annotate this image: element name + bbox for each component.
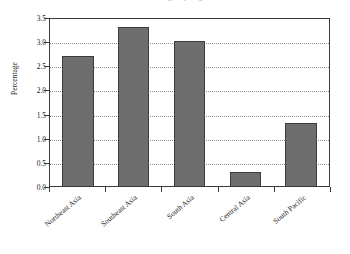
y-tick-mark (44, 66, 49, 67)
y-tick-label: 2.0 (20, 86, 46, 95)
x-tick-label: South Pacific (253, 193, 308, 241)
y-tick-label: 0.0 (20, 183, 46, 192)
x-tick-label: Northeast Asia (28, 193, 83, 241)
y-tick-mark (44, 90, 49, 91)
bar-slot (106, 19, 162, 186)
bar[interactable] (62, 56, 93, 186)
x-tick-label: Central Asia (197, 193, 252, 241)
y-tick-mark (44, 139, 49, 140)
bar-slot (217, 19, 273, 186)
y-tick-label: 3.0 (20, 38, 46, 47)
chart-title: Percentage by region (0, 0, 350, 1)
bar-slot (50, 19, 106, 186)
bars-layer (50, 19, 329, 186)
bar-slot (273, 19, 329, 186)
x-tick-mark (274, 187, 275, 192)
y-tick-label: 1.5 (20, 110, 46, 119)
x-tick-mark (49, 187, 50, 192)
x-tick-mark (330, 187, 331, 192)
bar[interactable] (285, 123, 316, 186)
bar[interactable] (118, 27, 149, 186)
bar[interactable] (174, 41, 205, 186)
y-tick-mark (44, 163, 49, 164)
y-tick-label: 2.5 (20, 62, 46, 71)
y-tick-label: 1.0 (20, 134, 46, 143)
x-tick-mark (218, 187, 219, 192)
y-tick-label: 0.5 (20, 158, 46, 167)
bar-slot (162, 19, 218, 186)
x-tick-label: South Asia (140, 193, 195, 241)
bar-chart: Percentage by region Percentage 0.00.51.… (0, 0, 350, 254)
x-tick-mark (105, 187, 106, 192)
y-tick-mark (44, 18, 49, 19)
y-tick-label: 3.5 (20, 14, 46, 23)
plot-area (49, 18, 330, 187)
y-tick-mark (44, 115, 49, 116)
x-tick-mark (161, 187, 162, 192)
y-axis-title: Percentage (10, 39, 19, 119)
bar[interactable] (230, 172, 261, 186)
x-tick-label: Southeast Asia (84, 193, 139, 241)
y-tick-mark (44, 42, 49, 43)
